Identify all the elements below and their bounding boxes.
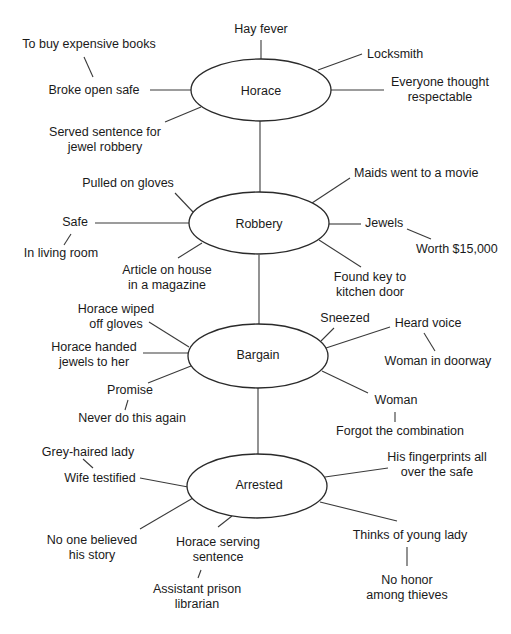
edge-wife-testified bbox=[140, 478, 188, 487]
leaf-fingerprints-line2: over the safe bbox=[401, 465, 473, 479]
leaf-fingerprints-line1: His fingerprints all bbox=[387, 450, 486, 464]
leaf-heard-voice: Heard voice bbox=[395, 316, 462, 330]
leaf-wife-testified: Wife testified bbox=[64, 471, 136, 485]
edge-heard-voice bbox=[326, 327, 390, 348]
leaf-assistant-line1: Assistant prison bbox=[153, 582, 241, 596]
leaf-assistant-line2: librarian bbox=[175, 597, 220, 611]
leaf-wiped-line2: off gloves bbox=[89, 317, 142, 331]
edge-pulled-on-gloves bbox=[175, 193, 193, 212]
leaf-no-one-believed-line2: his story bbox=[69, 548, 116, 562]
node-label-robbery: Robbery bbox=[235, 217, 283, 231]
leaf-served-sentence-line2: jewel robbery bbox=[67, 140, 143, 154]
edge-horace-serving bbox=[218, 516, 232, 527]
leaf-woman: Woman bbox=[375, 393, 418, 407]
leaf-wiped-line1: Horace wiped bbox=[78, 302, 154, 316]
trunk-connectors bbox=[258, 121, 260, 454]
node-group-arrested: Arrested Grey-haired lady Wife testified… bbox=[42, 445, 487, 611]
leaf-woman-doorway: Woman in doorway bbox=[385, 354, 493, 368]
edge-woman-doorway bbox=[424, 333, 435, 351]
leaf-horace-serving-line1: Horace serving bbox=[176, 535, 260, 549]
leaf-in-living-room: In living room bbox=[24, 246, 98, 260]
edge-fingerprints bbox=[325, 468, 388, 477]
leaf-everyone-thought-line1: Everyone thought bbox=[391, 75, 490, 89]
node-label-arrested: Arrested bbox=[235, 478, 282, 492]
node-label-bargain: Bargain bbox=[236, 348, 279, 362]
leaf-to-buy-books: To buy expensive books bbox=[22, 37, 155, 51]
leaf-maids: Maids went to a movie bbox=[354, 166, 478, 180]
edge-assistant-librarian bbox=[198, 570, 201, 578]
edge-no-one-believed bbox=[140, 498, 193, 529]
edge-never-again bbox=[125, 400, 128, 410]
leaf-grey-haired-lady: Grey-haired lady bbox=[42, 445, 135, 459]
leaf-worth: Worth $15,000 bbox=[416, 242, 498, 256]
leaf-no-honor-line2: among thieves bbox=[366, 588, 447, 602]
leaf-safe: Safe bbox=[62, 215, 88, 229]
leaf-never-again: Never do this again bbox=[78, 411, 186, 425]
story-map-diagram: Horace Hay fever Locksmith Everyone thou… bbox=[0, 0, 511, 634]
leaf-horace-serving-line2: sentence bbox=[193, 550, 244, 564]
leaf-hay-fever: Hay fever bbox=[234, 22, 288, 36]
edge-in-living-room bbox=[64, 234, 71, 245]
leaf-thinks-young-lady: Thinks of young lady bbox=[353, 528, 468, 542]
leaf-jewels: Jewels bbox=[365, 216, 403, 230]
edge-promise bbox=[148, 366, 191, 383]
leaf-forgot-combination: Forgot the combination bbox=[336, 424, 464, 438]
edge-sneezed bbox=[321, 328, 334, 341]
edge-locksmith bbox=[318, 54, 362, 70]
node-group-bargain: Bargain Horace wiped off gloves Horace h… bbox=[51, 302, 492, 438]
leaf-found-key-line2: kitchen door bbox=[336, 285, 404, 299]
edge-to-buy-books bbox=[84, 57, 93, 77]
leaf-found-key-line1: Found key to bbox=[334, 270, 406, 284]
leaf-served-sentence-line1: Served sentence for bbox=[49, 125, 161, 139]
edge-article bbox=[178, 243, 202, 258]
edge-maids bbox=[312, 178, 350, 203]
leaf-no-one-believed-line1: No one believed bbox=[47, 533, 137, 547]
edge-found-key bbox=[319, 240, 361, 267]
edge-grey-haired-lady bbox=[83, 459, 93, 468]
edge-worth bbox=[407, 229, 431, 239]
leaf-pulled-on-gloves: Pulled on gloves bbox=[82, 176, 174, 190]
leaf-everyone-thought-line2: respectable bbox=[408, 90, 473, 104]
leaf-locksmith: Locksmith bbox=[367, 47, 423, 61]
edge-wiped-gloves bbox=[149, 322, 189, 347]
leaf-promise: Promise bbox=[107, 383, 153, 397]
node-label-horace: Horace bbox=[241, 84, 281, 98]
leaf-broke-open-safe: Broke open safe bbox=[48, 83, 139, 97]
edge-thinks-young-lady bbox=[320, 502, 397, 521]
node-group-horace: Horace Hay fever Locksmith Everyone thou… bbox=[22, 22, 489, 154]
leaf-handed-line1: Horace handed bbox=[51, 340, 137, 354]
edge-woman bbox=[322, 371, 368, 393]
node-group-robbery: Robbery Pulled on gloves Safe In living … bbox=[24, 166, 498, 299]
leaf-handed-line2: jewels to her bbox=[58, 355, 129, 369]
leaf-article-line1: Article on house bbox=[122, 263, 212, 277]
edge-served-sentence bbox=[165, 107, 201, 122]
leaf-sneezed: Sneezed bbox=[320, 311, 369, 325]
leaf-no-honor-line1: No honor bbox=[381, 573, 432, 587]
leaf-article-line2: in a magazine bbox=[128, 278, 206, 292]
